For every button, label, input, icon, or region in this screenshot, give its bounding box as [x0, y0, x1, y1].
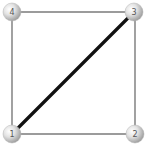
node-1: 1 [3, 125, 21, 143]
node-2: 2 [126, 125, 144, 143]
node-label: 3 [131, 8, 136, 17]
node-4: 4 [3, 3, 21, 21]
node-3: 3 [125, 3, 143, 21]
graph-diagram: 4 3 1 2 [0, 0, 149, 145]
node-label: 2 [132, 130, 137, 139]
edge-1-3-highlighted [13, 13, 133, 133]
node-label: 4 [9, 8, 14, 17]
graph-svg: 4 3 1 2 [0, 0, 149, 145]
node-label: 1 [9, 130, 14, 139]
